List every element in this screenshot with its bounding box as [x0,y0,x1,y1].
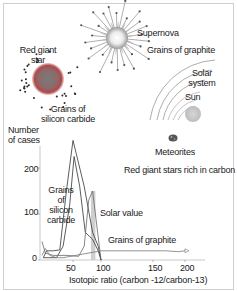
label-grains-silicon-carbide: Grains of silicon carbide [38,104,98,124]
graphite-grain [115,12,117,14]
y-tick-label-100: 100 [24,207,38,217]
graphite-grain [131,53,133,55]
supernova-core [106,27,128,49]
graphite-grain [91,34,93,36]
graphite-grain [124,0,126,2]
meteorite-icon [169,135,178,142]
annotation-solar-value: Solar value [100,208,143,218]
graphite-grain [139,45,141,47]
graphite-grain [123,64,125,66]
label-solar-line2: system [182,78,222,88]
graphite-grain [92,11,94,13]
label-solar-line1: Solar [182,68,222,78]
series-line-4 [42,249,185,258]
annotation-grains-graphite: Grains of graphite [108,235,176,245]
graphite-grain [90,47,92,49]
label-red-giant-line1: Red giant [10,45,66,55]
graphite-grain [80,24,82,26]
x-tick-label-50: 50 [66,263,76,273]
silicon-carbide-grain [76,66,78,68]
silicon-carbide-grain [74,93,76,95]
graphite-grain [139,21,141,23]
y-axis-label: Number of cases [8,125,40,145]
graphite-grain [146,25,148,27]
graphite-grain [110,61,112,63]
figure-svg [0,0,237,291]
silicon-carbide-grain [61,95,63,97]
graphite-grain [133,68,135,70]
silicon-carbide-grain [23,86,25,88]
silicon-carbide-grain [69,72,71,74]
annotation-sic-line4: carbide [44,215,78,225]
x-tick-label-100: 100 [96,263,110,273]
silicon-carbide-grain [23,69,25,71]
label-red-giant-rich: Red giant stars rich in carbon [124,165,235,175]
graphite-grain [102,12,104,14]
graphite-grain [84,41,86,43]
silicon-carbide-grain [26,65,28,67]
label-sic-line1: Grains of [38,104,98,114]
label-supernova: Supernova [137,28,179,38]
label-solar-system: Solar system [182,68,222,88]
graphite-grain [88,57,90,59]
silicon-carbide-grain [28,84,30,86]
graphite-grain [108,6,110,8]
graphite-arrow-icon [185,249,189,253]
x-tick-label-150: 150 [148,263,162,273]
silicon-carbide-grain [19,89,21,91]
silicon-carbide-grain [21,80,23,82]
silicon-carbide-grain [65,95,67,97]
silicon-carbide-grain [33,97,35,99]
sun-icon [185,106,201,122]
silicon-carbide-grain [70,85,72,87]
label-sun: Sun [185,92,200,102]
silicon-carbide-grain [56,96,58,98]
silicon-carbide-grain [25,71,27,73]
label-red-giant-line2: star [10,55,66,65]
x-axis-label: Isotopic ratio (carbon -12/carbon-13) [69,275,207,285]
y-axis-label-line1: Number [8,125,40,135]
silicon-carbide-grain [24,91,26,93]
y-axis-label-line2: of cases [8,135,40,145]
annotation-sic-line3: silicon [44,205,78,215]
annotation-silicon-carbide: Grains of silicon carbide [44,185,78,225]
label-grains-graphite-top: Grains of graphite [147,45,215,55]
x-tick-label-200: 200 [180,263,194,273]
graphite-grain [99,71,101,73]
label-sic-line2: silicon carbide [38,114,98,124]
graphite-grain [102,54,104,56]
silicon-carbide-grain [25,78,27,80]
graphite-grain [98,25,100,27]
y-tick-label-200: 200 [24,164,38,174]
silicon-carbide-grain [23,88,25,90]
annotation-sic-line2: of [44,195,78,205]
label-meteorites: Meteorites [155,147,195,157]
graphite-grain [139,10,141,12]
y-tick-label-0: 0 [32,253,37,263]
graphite-grain [126,17,128,19]
silicon-carbide-grain [64,93,66,95]
graphite-grain [117,69,119,71]
silicon-carbide-grain [25,82,27,84]
label-red-giant: Red giant star [10,45,66,65]
annotation-sic-line1: Grains [44,185,78,195]
graphite-grain [148,58,150,60]
graphite-grain [148,40,150,42]
